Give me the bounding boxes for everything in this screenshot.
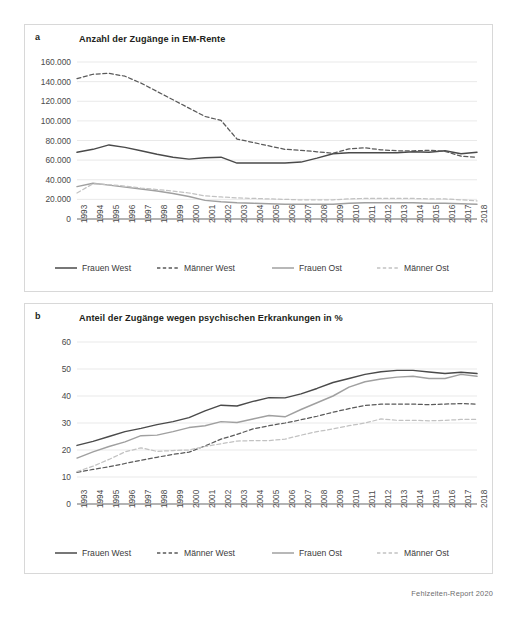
x-tick-label: 2013 (400, 205, 409, 223)
legend-item: Männer West (157, 548, 235, 558)
line-chart-b (25, 304, 494, 575)
x-tick-label: 2012 (384, 205, 393, 223)
x-tick-label: 2015 (432, 205, 441, 223)
legend-label: Frauen West (82, 263, 131, 273)
plot-area-b: 0102030405060 19931994199519961997199819… (25, 304, 492, 573)
x-tick-label: 2001 (208, 490, 217, 508)
legend-swatch-dashed (157, 264, 179, 272)
x-tick-label: 2000 (192, 205, 201, 223)
x-tick-label: 2017 (464, 490, 473, 508)
x-tick-label: 2014 (416, 205, 425, 223)
series-line (77, 374, 477, 458)
x-tick-label: 2009 (336, 205, 345, 223)
x-tick-label: 2009 (336, 490, 345, 508)
legend-item: Frauen West (55, 548, 131, 558)
series-line (77, 73, 477, 157)
x-tick-label: 2001 (208, 205, 217, 223)
legend-swatch-dashed (377, 549, 399, 557)
legend-label: Frauen West (82, 548, 131, 558)
x-tick-label: 1999 (176, 205, 185, 223)
x-tick-label: 2018 (480, 490, 489, 508)
legend-item: Frauen Ost (272, 548, 342, 558)
chart-panel-b: b Anteil der Zugänge wegen psychischen E… (24, 303, 493, 574)
x-tick-label: 2005 (272, 205, 281, 223)
x-tick-label: 1995 (112, 490, 121, 508)
figure-page: a Anzahl der Zugänge in EM-Rente 020.000… (0, 0, 517, 617)
x-tick-label: 2015 (432, 490, 441, 508)
x-tick-label: 2007 (304, 205, 313, 223)
x-tick-label: 2002 (224, 490, 233, 508)
x-tick-label: 2003 (240, 205, 249, 223)
x-tick-label: 1993 (80, 490, 89, 508)
legend-swatch-dashed (377, 264, 399, 272)
x-tick-label: 2006 (288, 205, 297, 223)
source-note: Fehlzeiten-Report 2020 (411, 589, 493, 598)
x-tick-label: 1994 (96, 490, 105, 508)
x-tick-label: 2011 (368, 205, 377, 223)
x-tick-label: 2003 (240, 490, 249, 508)
x-tick-label: 2002 (224, 205, 233, 223)
x-tick-label: 2013 (400, 490, 409, 508)
chart-panel-a: a Anzahl der Zugänge in EM-Rente 020.000… (24, 24, 493, 292)
x-tick-label: 2014 (416, 490, 425, 508)
legend-label: Männer West (184, 548, 235, 558)
legend-item: Frauen Ost (272, 263, 342, 273)
series-line (77, 419, 477, 472)
legend-label: Männer Ost (404, 263, 449, 273)
x-tick-label: 1996 (128, 490, 137, 508)
series-line (77, 370, 477, 445)
x-tick-label: 2007 (304, 490, 313, 508)
x-tick-label: 2017 (464, 205, 473, 223)
x-tick-label: 2000 (192, 490, 201, 508)
x-tick-label: 2018 (480, 205, 489, 223)
x-tick-label: 2008 (320, 490, 329, 508)
x-tick-label: 1995 (112, 205, 121, 223)
series-line (77, 183, 477, 204)
legend-swatch-solid (272, 549, 294, 557)
legend-swatch-solid (55, 264, 77, 272)
x-tick-label: 1994 (96, 205, 105, 223)
legend-item: Männer Ost (377, 263, 449, 273)
x-tick-label: 2010 (352, 205, 361, 223)
x-tick-label: 1996 (128, 205, 137, 223)
x-tick-label: 1997 (144, 490, 153, 508)
line-chart-a (25, 25, 494, 293)
legend-item: Männer West (157, 263, 235, 273)
x-tick-label: 2008 (320, 205, 329, 223)
x-tick-label: 2005 (272, 490, 281, 508)
legend-item: Männer Ost (377, 548, 449, 558)
x-tick-label: 1997 (144, 205, 153, 223)
plot-area-a: 020.00040.00060.00080.000100.000120.0001… (25, 25, 492, 291)
series-line (77, 184, 477, 201)
legend-label: Männer Ost (404, 548, 449, 558)
x-tick-label: 2010 (352, 490, 361, 508)
x-tick-label: 2016 (448, 490, 457, 508)
legend-label: Frauen Ost (299, 548, 342, 558)
legend-swatch-solid (272, 264, 294, 272)
x-tick-label: 2004 (256, 205, 265, 223)
legend-swatch-dashed (157, 549, 179, 557)
x-tick-label: 2006 (288, 490, 297, 508)
x-tick-label: 1998 (160, 205, 169, 223)
legend-label: Männer West (184, 263, 235, 273)
legend-item: Frauen West (55, 263, 131, 273)
x-tick-label: 2016 (448, 205, 457, 223)
legend-swatch-solid (55, 549, 77, 557)
x-tick-label: 1993 (80, 205, 89, 223)
x-tick-label: 1998 (160, 490, 169, 508)
legend-label: Frauen Ost (299, 263, 342, 273)
x-tick-label: 2012 (384, 490, 393, 508)
x-tick-label: 2011 (368, 490, 377, 508)
x-tick-label: 1999 (176, 490, 185, 508)
x-tick-label: 2004 (256, 490, 265, 508)
